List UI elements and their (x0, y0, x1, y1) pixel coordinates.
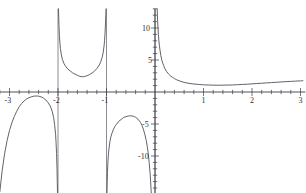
plot-figure: -3-2-1123-10-5510 (0, 0, 306, 193)
plot-background (0, 0, 306, 193)
x-tick-label: 1 (202, 96, 206, 105)
y-tick-label: 10 (142, 24, 150, 33)
x-tick-label: -2 (53, 96, 60, 105)
x-tick-label: -1 (102, 96, 109, 105)
x-tick-label: 2 (250, 96, 254, 105)
y-tick-label: -10 (138, 152, 149, 161)
y-tick-label: 5 (148, 56, 152, 65)
x-tick-label: -3 (5, 96, 12, 105)
y-tick-label: -5 (142, 120, 149, 129)
plot-canvas: -3-2-1123-10-5510 (0, 0, 306, 193)
x-tick-label: 3 (299, 96, 303, 105)
